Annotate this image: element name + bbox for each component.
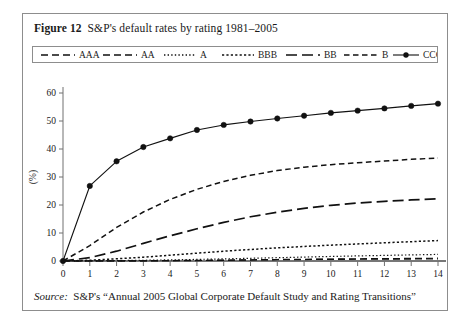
series-line-bb	[63, 199, 438, 261]
legend-label-aa: AA	[141, 50, 155, 60]
chart-legend: AAAAAABBBBBBCCC/c	[32, 46, 438, 63]
x-tick-label: 9	[302, 269, 307, 279]
legend-label-aaa: AAA	[79, 50, 100, 60]
y-tick-label: 0	[51, 256, 56, 266]
x-tick-label: 4	[168, 269, 173, 279]
x-tick-label: 5	[195, 269, 200, 279]
x-tick-label: 10	[326, 269, 336, 279]
figure-source: Source: S&P's “Annual 2005 Global Corpor…	[34, 290, 416, 302]
series-line-b	[63, 158, 438, 261]
series-marker-ccc-c	[87, 183, 92, 188]
figure-container: Figure 12 S&P's default rates by rating …	[22, 13, 448, 311]
legend-label-bbb: BBB	[258, 50, 277, 60]
x-tick-label: 1	[87, 269, 92, 279]
x-tick-label: 7	[248, 269, 253, 279]
figure-title-text: S&P's default rates by rating 1981–2005	[88, 22, 278, 34]
x-tick-label: 12	[380, 269, 390, 279]
series-marker-ccc-c	[141, 144, 146, 149]
y-tick-label: 30	[47, 172, 57, 182]
series-marker-ccc-c	[221, 122, 226, 127]
x-tick-label: 11	[353, 269, 362, 279]
source-label: Source:	[34, 290, 68, 302]
series-marker-ccc-c	[435, 101, 440, 106]
series-marker-ccc-c	[328, 110, 333, 115]
series-marker-ccc-c	[382, 106, 387, 111]
legend-svg: AAAAAABBBBBBCCC/c	[33, 47, 437, 62]
series-marker-ccc-c	[167, 136, 172, 141]
x-tick-label: 13	[406, 269, 416, 279]
chart-plot-area: 010203040506001234567891011121314(%)(Tim…	[23, 66, 447, 281]
y-tick-label: 60	[47, 88, 57, 98]
series-marker-ccc-c	[248, 119, 253, 124]
series-line-ccc-c	[63, 104, 438, 261]
x-tick-label: 14	[433, 269, 443, 279]
series-marker-ccc-c	[355, 108, 360, 113]
legend-label-bb: BB	[324, 50, 337, 60]
chart-svg: 010203040506001234567891011121314(%)(Tim…	[23, 66, 447, 281]
legend-marker-ccc-c	[403, 52, 408, 57]
series-marker-ccc-c	[114, 159, 119, 164]
series-marker-ccc-c	[60, 258, 65, 263]
source-text: S&P's “Annual 2005 Global Corporate Defa…	[73, 290, 416, 302]
y-tick-label: 10	[47, 228, 57, 238]
figure-title: Figure 12 S&P's default rates by rating …	[34, 22, 278, 34]
series-marker-ccc-c	[194, 127, 199, 132]
y-axis-title: (%)	[28, 170, 39, 184]
series-marker-ccc-c	[409, 103, 414, 108]
figure-label: Figure 12	[34, 22, 82, 34]
x-tick-label: 2	[114, 269, 119, 279]
y-tick-label: 20	[47, 200, 57, 210]
y-tick-label: 50	[47, 116, 57, 126]
x-tick-label: 3	[141, 269, 146, 279]
x-tick-label: 0	[61, 269, 66, 279]
x-tick-label: 8	[275, 269, 280, 279]
legend-label-a: A	[200, 50, 207, 60]
legend-label-ccc-c: CCC/c	[423, 50, 437, 60]
series-marker-ccc-c	[275, 116, 280, 121]
series-marker-ccc-c	[301, 113, 306, 118]
x-tick-label: 6	[221, 269, 226, 279]
y-tick-label: 40	[47, 144, 57, 154]
legend-label-b: B	[382, 50, 388, 60]
